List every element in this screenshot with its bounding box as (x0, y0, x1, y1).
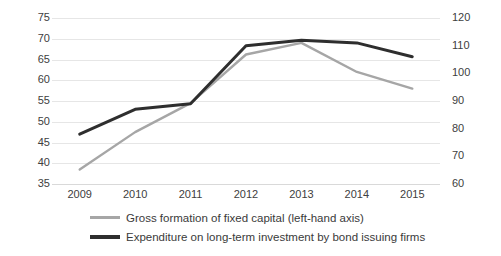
y-axis-left-tick: 55 (20, 95, 50, 106)
x-axis-tick: 2013 (271, 189, 331, 200)
legend-item[interactable]: Gross formation of fixed capital (left-h… (90, 208, 470, 227)
y-axis-right-tick: 70 (452, 150, 486, 161)
legend-swatch-icon (90, 235, 120, 239)
y-axis-right-tick: 60 (452, 178, 486, 189)
y-axis-left-tick: 50 (20, 116, 50, 127)
y-axis-left-tick: 35 (20, 178, 50, 189)
chart-legend: Gross formation of fixed capital (left-h… (90, 208, 470, 246)
plot-area (52, 18, 440, 184)
gridline (52, 184, 440, 185)
x-axis-tick: 2014 (327, 189, 387, 200)
y-axis-right-tick: 110 (452, 40, 486, 51)
y-axis-right-tick: 80 (452, 123, 486, 134)
x-axis-tick: 2009 (50, 189, 110, 200)
y-axis-right-tick: 100 (452, 67, 486, 78)
chart-container: 757065605550454035 12011010090807060 200… (0, 0, 501, 256)
series-line (80, 43, 413, 170)
y-axis-left-tick: 45 (20, 137, 50, 148)
y-axis-left-tick: 40 (20, 157, 50, 168)
series-lines (52, 18, 440, 184)
x-axis-tick: 2015 (382, 189, 442, 200)
y-axis-right-tick: 120 (452, 12, 486, 23)
y-axis-left-tick: 65 (20, 54, 50, 65)
legend-label: Gross formation of fixed capital (left-h… (126, 212, 364, 224)
y-axis-right-tick: 90 (452, 95, 486, 106)
y-axis-left-tick: 60 (20, 74, 50, 85)
legend-swatch-icon (90, 216, 120, 219)
y-axis-left-tick: 70 (20, 33, 50, 44)
y-axis-left-tick: 75 (20, 12, 50, 23)
legend-label: Expenditure on long-term investment by b… (126, 231, 425, 243)
legend-item[interactable]: Expenditure on long-term investment by b… (90, 227, 470, 246)
x-axis-tick: 2011 (161, 189, 221, 200)
x-axis-tick: 2012 (216, 189, 276, 200)
x-axis-tick: 2010 (105, 189, 165, 200)
